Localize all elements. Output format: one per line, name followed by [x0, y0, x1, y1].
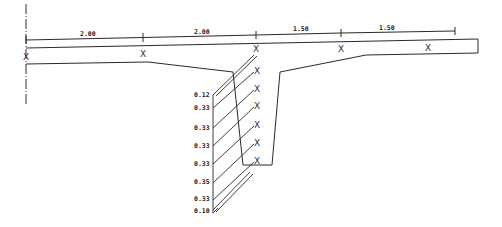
dimension-label: 2.00 [194, 28, 210, 36]
marker-x: X [254, 138, 260, 148]
marker-x: X [425, 43, 431, 53]
layer-label: 0.33 [194, 142, 210, 150]
marker-x: X [254, 84, 260, 94]
layer-label: 0.33 [194, 160, 210, 168]
marker-x: X [140, 49, 146, 59]
hatched-layers [213, 55, 257, 213]
dimension-label: 2.00 [80, 30, 96, 38]
marker-x: X [254, 101, 260, 111]
layer-label: 0.10 [194, 207, 210, 215]
marker-x: X [23, 52, 29, 62]
layer-label: 0.33 [194, 104, 210, 112]
layer-label: 0.12 [194, 91, 210, 99]
marker-x: X [254, 156, 260, 166]
layer-label: 0.35 [194, 178, 210, 186]
marker-x: X [338, 44, 344, 54]
marker-x: X [253, 44, 259, 54]
dimension-label: 1.50 [293, 25, 309, 33]
dimension-label: 1.50 [379, 24, 395, 32]
layer-label: 0.33 [194, 124, 210, 132]
bridge-section-drawing: 2.00 2.00 1.50 1.50 X X X X X X X X X X … [0, 0, 502, 227]
marker-x: X [254, 66, 260, 76]
marker-x: X [254, 120, 260, 130]
layer-label: 0.33 [194, 195, 210, 203]
